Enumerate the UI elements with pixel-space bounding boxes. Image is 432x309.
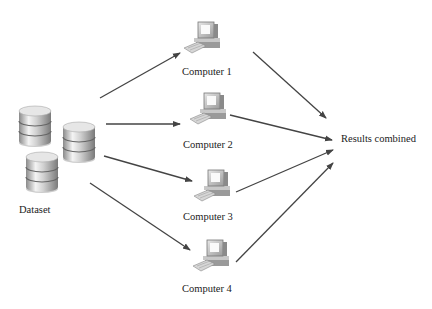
computer-icon xyxy=(194,170,230,201)
computer-4-label: Computer 4 xyxy=(182,283,232,294)
results-combined-label: Results combined xyxy=(341,133,416,144)
diagram-arrows xyxy=(0,0,432,309)
computer-icon xyxy=(184,22,220,53)
computer-icon xyxy=(190,93,226,124)
computer-2-label: Computer 2 xyxy=(183,139,233,150)
computer-3-label: Computer 3 xyxy=(183,211,233,222)
distributed-processing-diagram: Dataset Computer 1 Computer 2 Computer 3… xyxy=(0,0,432,309)
computer-1-label: Computer 1 xyxy=(182,66,232,77)
database-icon xyxy=(19,106,95,193)
dataset-label: Dataset xyxy=(19,204,51,215)
computer-icon xyxy=(193,240,229,271)
